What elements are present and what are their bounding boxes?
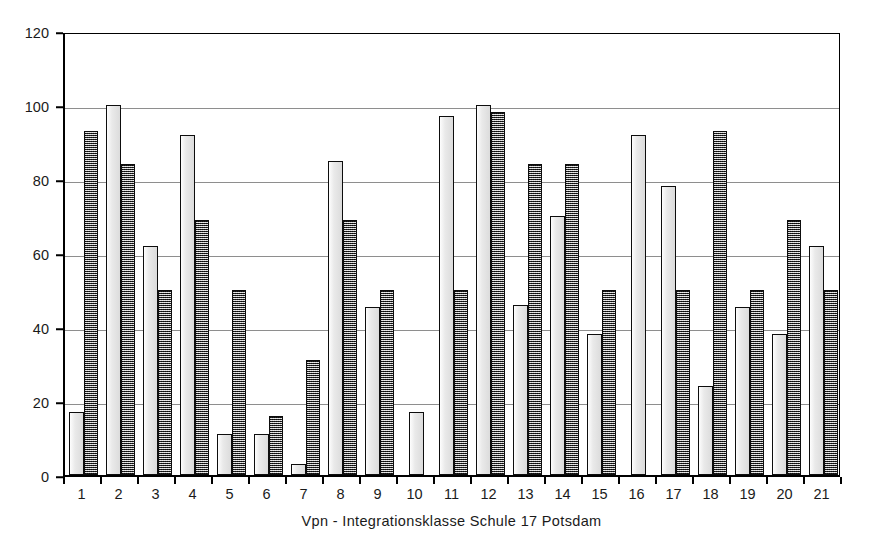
bar (269, 416, 284, 475)
x-axis-tick-label: 4 (188, 487, 196, 502)
x-axis-title: Vpn - Integrationsklasse Schule 17 Potsd… (63, 513, 840, 529)
x-axis-tick-label: 7 (299, 487, 307, 502)
x-axis-tick-mark (396, 477, 398, 484)
bar (550, 216, 565, 475)
bar (787, 220, 802, 475)
x-axis-tick-labels: 123456789101112131415161718192021 (63, 487, 840, 509)
y-axis-tick-label: 80 (3, 174, 49, 189)
x-axis-tick-label: 2 (114, 487, 122, 502)
x-axis-tick-label: 9 (373, 487, 381, 502)
y-axis-tick-label: 0 (3, 470, 49, 485)
y-axis-tick-label: 60 (3, 248, 49, 263)
bar-group (398, 34, 435, 475)
x-axis-tick-mark (63, 477, 65, 484)
x-axis-tick-label: 8 (336, 487, 344, 502)
bar (254, 434, 269, 475)
bar (69, 412, 84, 475)
bar (84, 131, 99, 475)
x-axis-tick-mark (285, 477, 287, 484)
bar (291, 464, 306, 475)
bar (439, 116, 454, 475)
bar (809, 246, 824, 475)
x-axis-tick-mark (248, 477, 250, 484)
x-axis-tick-label: 10 (406, 487, 422, 502)
x-axis-tick-label: 5 (225, 487, 233, 502)
x-axis-tick-mark (544, 477, 546, 484)
y-axis-tick-label: 100 (3, 100, 49, 115)
bar-group (176, 34, 213, 475)
bar (306, 360, 321, 475)
x-axis-tick-label: 12 (480, 487, 496, 502)
bar (824, 290, 839, 475)
y-axis-tick-mark (56, 402, 63, 404)
x-axis-tick-mark (840, 477, 842, 484)
x-axis-tick-mark (618, 477, 620, 484)
bar-chart: 020406080100120 123456789101112131415161… (0, 0, 871, 550)
bar (217, 434, 232, 475)
bar (491, 112, 506, 475)
y-axis-tick-mark (56, 32, 63, 34)
plot-area (63, 33, 840, 477)
x-axis-tick-label: 14 (554, 487, 570, 502)
y-axis-tick-mark (56, 328, 63, 330)
x-axis-tick-label: 18 (702, 487, 718, 502)
x-axis-tick-mark (507, 477, 509, 484)
bar (328, 161, 343, 476)
bar (587, 334, 602, 475)
x-axis-tick-label: 11 (444, 487, 459, 502)
bar (106, 105, 121, 475)
bar (121, 164, 136, 475)
y-axis: 020406080100120 (0, 33, 63, 477)
y-axis-tick-mark (56, 106, 63, 108)
bar (476, 105, 491, 475)
x-axis-tick-mark (692, 477, 694, 484)
x-axis-tick-label: 19 (739, 487, 755, 502)
x-axis-tick-mark (581, 477, 583, 484)
y-axis-tick-label: 20 (3, 396, 49, 411)
bar (676, 290, 691, 475)
x-axis-tick-mark (655, 477, 657, 484)
bar (158, 290, 173, 475)
bar (454, 290, 469, 475)
x-axis-tick-mark (433, 477, 435, 484)
x-axis-tick-mark (470, 477, 472, 484)
x-axis-tick-label: 13 (517, 487, 533, 502)
bar (180, 135, 195, 475)
bar-group (546, 34, 583, 475)
y-axis-tick-label: 40 (3, 322, 49, 337)
bar (232, 290, 247, 475)
x-axis-tick-mark (137, 477, 139, 484)
x-axis-tick-label: 1 (77, 487, 85, 502)
x-axis-tick-mark (766, 477, 768, 484)
bar-group (768, 34, 805, 475)
bar (365, 307, 380, 475)
y-axis-tick-mark (56, 180, 63, 182)
bar-group (139, 34, 176, 475)
x-axis-tick-label: 20 (776, 487, 792, 502)
x-axis-tick-mark (211, 477, 213, 484)
x-axis-tick-label: 16 (628, 487, 644, 502)
bar-group (361, 34, 398, 475)
x-axis-tick-mark (100, 477, 102, 484)
bar-group (213, 34, 250, 475)
bar-group (472, 34, 509, 475)
y-axis-tick-mark (56, 476, 63, 478)
bar-group (65, 34, 102, 475)
bar-group (435, 34, 472, 475)
bar-group (583, 34, 620, 475)
bar (772, 334, 787, 475)
x-axis-tick-mark (359, 477, 361, 484)
x-axis-tick-label: 3 (151, 487, 159, 502)
bar (380, 290, 395, 475)
bar-group (731, 34, 768, 475)
bar (195, 220, 210, 475)
bar (631, 135, 646, 475)
bar (528, 164, 543, 475)
x-axis-tick-label: 15 (591, 487, 607, 502)
bar (735, 307, 750, 475)
x-axis-tick-label: 21 (813, 487, 829, 502)
x-axis-tick-mark (174, 477, 176, 484)
x-axis-tick-mark (803, 477, 805, 484)
x-axis-tick-label: 6 (262, 487, 270, 502)
bar (661, 186, 676, 475)
